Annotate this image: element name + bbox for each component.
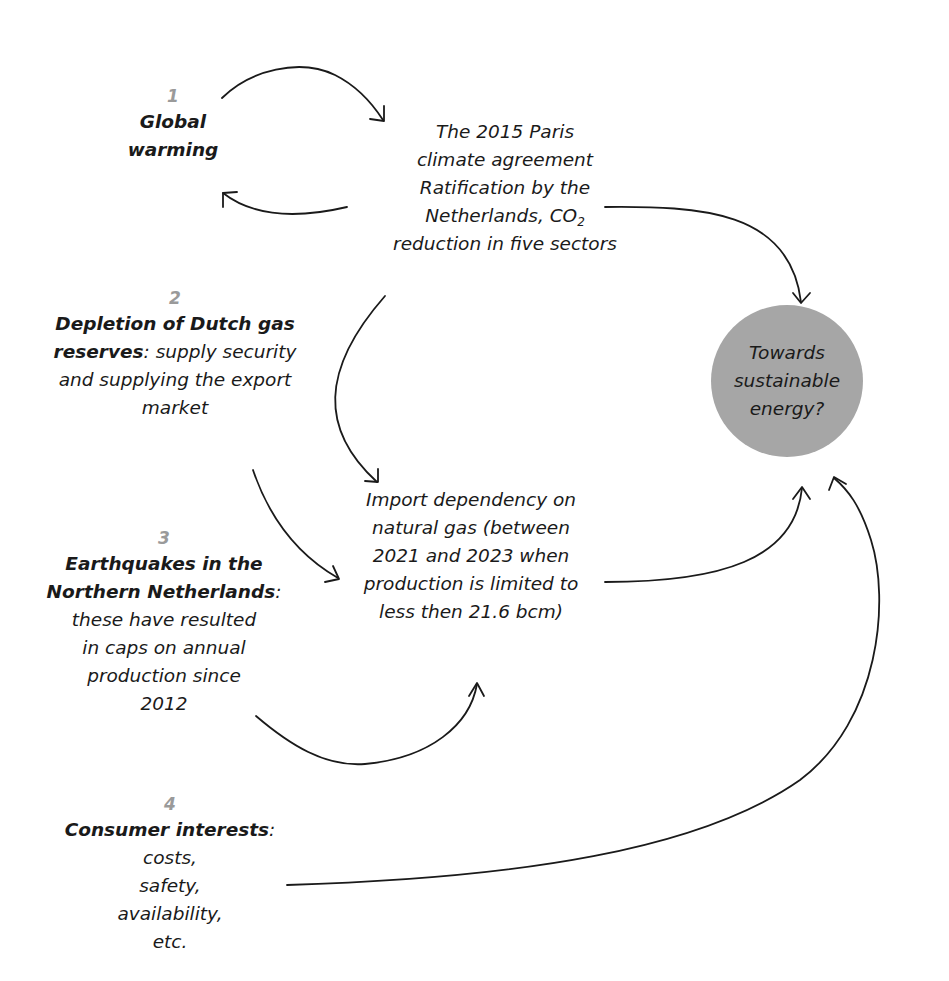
factor-number: 2 (44, 286, 306, 310)
factor-number: 3 (46, 526, 282, 550)
factor-title-colon: : (275, 581, 281, 602)
factor-title: Earthquakes in the Northern Netherlands (47, 553, 276, 602)
import-line: less then 21.6 bcm) (340, 598, 602, 626)
paris-line: Ratification by the (360, 174, 650, 202)
import-dependency: Import dependency on natural gas (betwee… (340, 486, 602, 626)
paris-line: The 2015 Paris (360, 118, 650, 146)
factor-title: Global warming (125, 108, 221, 164)
arrow-earthquakes-to-import (256, 683, 484, 764)
factor-title: Consumer interests (65, 819, 269, 840)
arrow-paris-to-global-warming (223, 192, 347, 214)
factor-consumer-interests: 4 Consumer interests: costs, safety, ava… (60, 792, 280, 956)
goal-line: sustainable (734, 367, 840, 395)
paris-line: Netherlands, CO2 (360, 202, 650, 230)
factor-description: these have resulted in caps on annual pr… (66, 606, 262, 718)
import-line: Import dependency on (340, 486, 602, 514)
factor-title-colon: : (144, 341, 150, 362)
factor-number: 1 (108, 84, 238, 108)
paris-co-subscript: 2 (577, 215, 585, 229)
paris-co-text: Netherlands, CO (425, 205, 577, 226)
factor-earthquakes: 3 Earthquakes in the Northern Netherland… (46, 526, 282, 718)
goal-line: energy? (734, 395, 840, 423)
import-line: 2021 and 2023 when (340, 542, 602, 570)
factor-title-colon: : (269, 819, 275, 840)
import-line: natural gas (between (340, 514, 602, 542)
sustainable-energy-goal: Towards sustainable energy? (711, 305, 863, 457)
paris-line: climate agreement (360, 146, 650, 174)
arrow-import-to-goal (605, 487, 810, 582)
paris-line: reduction in five sectors (360, 230, 650, 258)
factor-description: costs, safety, availability, etc. (111, 844, 229, 956)
factor-global-warming: 1 Global warming (108, 84, 238, 164)
factor-number: 4 (60, 792, 280, 816)
paris-agreement: The 2015 Paris climate agreement Ratific… (360, 118, 650, 258)
factor-depletion: 2 Depletion of Dutch gas reserves: suppl… (44, 286, 306, 422)
import-line: production is limited to (340, 570, 602, 598)
arrow-paris-to-import (335, 296, 385, 482)
goal-line: Towards (734, 339, 840, 367)
arrow-global-warming-to-paris (222, 67, 384, 121)
